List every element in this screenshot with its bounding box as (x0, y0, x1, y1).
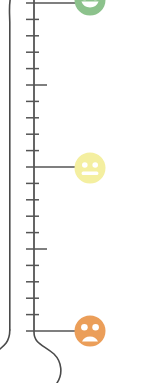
thermometer-tube-left-wall (9, 0, 11, 330)
thermometer-bulb-right-shoulder (34, 332, 61, 383)
mood-face-sad[interactable] (74, 315, 106, 347)
sad-face-icon (74, 315, 106, 347)
neutral-face-icon (74, 152, 106, 184)
thermometer-tick-marks (26, 3, 79, 331)
happy-face-icon (74, 0, 106, 16)
mood-face-neutral[interactable] (74, 152, 106, 184)
thermometer-bulb-left-shoulder (0, 330, 10, 352)
mood-face-happy[interactable] (74, 0, 106, 16)
mood-thermometer-widget (0, 0, 155, 383)
